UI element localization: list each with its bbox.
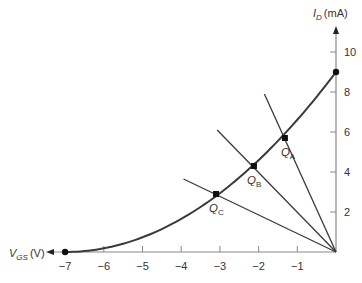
x-tick-label: −4 xyxy=(175,260,188,272)
x-tick-label: −1 xyxy=(291,260,304,272)
x-axis-title: VGS(V) xyxy=(9,247,45,262)
q-point-c xyxy=(213,191,219,197)
x-tick-label: −6 xyxy=(98,260,111,272)
transfer-curve xyxy=(62,69,339,255)
x-axis-arrow-icon xyxy=(46,249,54,255)
q-label-a: QA xyxy=(281,146,296,161)
q-point-a xyxy=(282,135,288,141)
x-tick-label: −7 xyxy=(59,260,72,272)
bias-line xyxy=(217,130,336,252)
q-point-markers xyxy=(213,135,288,197)
y-tick-label: 4 xyxy=(344,166,350,178)
curve-endpoint-marker xyxy=(333,69,339,75)
bias-lines xyxy=(184,94,336,252)
q-point-labels: QAQBQC xyxy=(209,146,296,217)
transfer-characteristic-chart: −7−6−5−4−3−2−1246810 QAQBQC ID(mA) VGS(V… xyxy=(0,0,362,283)
tick-marks xyxy=(104,52,336,252)
y-tick-label: 6 xyxy=(344,126,350,138)
q-point-b xyxy=(251,163,257,169)
axes xyxy=(46,26,339,255)
x-tick-label: −3 xyxy=(214,260,227,272)
curve-endpoint-marker xyxy=(62,249,68,255)
y-tick-label: 2 xyxy=(344,206,350,218)
q-label-b: QB xyxy=(247,174,261,189)
y-axis-arrow-icon xyxy=(333,26,339,34)
y-axis-title: ID(mA) xyxy=(313,7,348,22)
q-label-c: QC xyxy=(209,202,224,217)
y-tick-label: 10 xyxy=(344,46,356,58)
x-tick-label: −2 xyxy=(252,260,265,272)
tick-labels: −7−6−5−4−3−2−1246810 xyxy=(59,46,356,272)
y-tick-label: 8 xyxy=(344,86,350,98)
bias-line xyxy=(184,179,336,252)
x-tick-label: −5 xyxy=(136,260,149,272)
